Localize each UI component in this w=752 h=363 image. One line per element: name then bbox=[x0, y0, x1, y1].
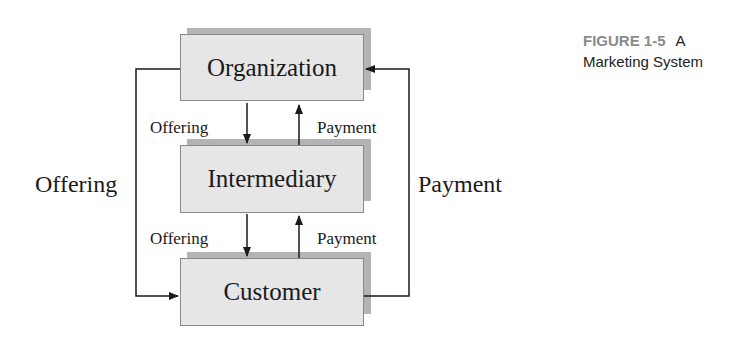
figure-caption: FIGURE 1-5A Marketing System bbox=[583, 30, 703, 72]
payment-label-upper: Payment bbox=[317, 118, 377, 138]
offering-label-outer: Offering bbox=[35, 171, 117, 198]
payment-arrow-customer-to-org bbox=[364, 69, 409, 296]
payment-label-lower: Payment bbox=[317, 229, 377, 249]
figure-number: FIGURE 1-5 bbox=[583, 32, 666, 49]
figure-title-line2: Marketing System bbox=[583, 51, 703, 72]
offering-label-upper: Offering bbox=[150, 118, 208, 138]
payment-label-outer: Payment bbox=[418, 171, 502, 198]
offering-label-lower: Offering bbox=[150, 229, 208, 249]
figure-title-line1: A bbox=[676, 32, 686, 49]
offering-arrow-org-to-customer bbox=[136, 69, 180, 296]
